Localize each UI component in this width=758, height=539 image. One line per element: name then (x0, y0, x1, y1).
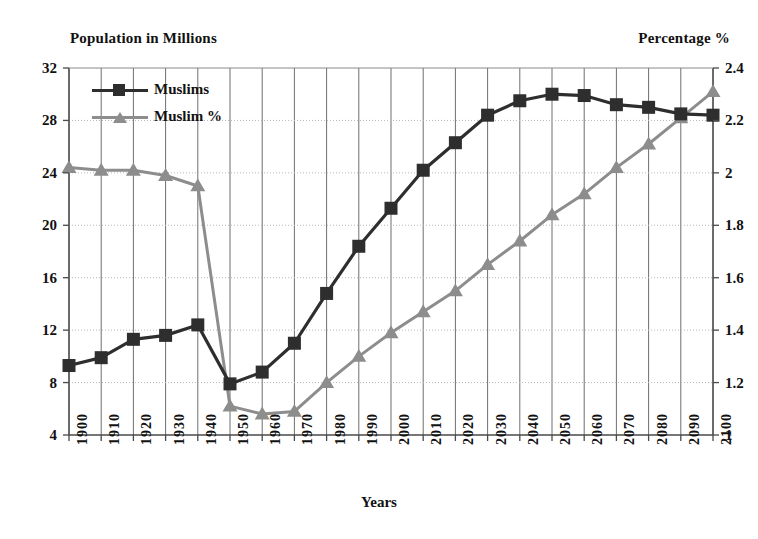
x-axis-tick-label: 1940 (204, 413, 220, 445)
x-axis-tick-label: 2050 (558, 413, 574, 445)
y2-axis-tick-label: 1.2 (725, 374, 758, 391)
y2-axis-tick-label: 1.6 (725, 269, 758, 286)
legend-item-muslim-percent: Muslim % (92, 103, 242, 130)
x-axis-tick-label: 1900 (75, 413, 91, 445)
x-axis-tick-label: 1970 (300, 413, 316, 445)
y-axis-tick-label: 28 (17, 112, 57, 129)
chart-container: Population in Millions Percentage % 4812… (0, 0, 758, 539)
x-axis-tick-label: 1960 (268, 413, 284, 445)
x-axis-tick-label: 2040 (526, 413, 542, 445)
x-axis-tick-label: 1910 (107, 413, 123, 445)
y2-axis-tick-label: 2.2 (725, 112, 758, 129)
chart-legend: Muslims Muslim % (92, 76, 242, 130)
y2-axis-tick-label: 1.4 (725, 322, 758, 339)
x-axis-tick-label: 2030 (494, 413, 510, 445)
y-axis-tick-label: 8 (17, 374, 57, 391)
y-axis-tick-label: 24 (17, 164, 57, 181)
legend-label-muslim-percent: Muslim % (154, 108, 222, 125)
y2-axis-tick-label: 1.8 (725, 217, 758, 234)
legend-swatch-muslims (92, 83, 148, 97)
y-axis-tick-label: 32 (17, 60, 57, 77)
x-axis-tick-label: 2090 (687, 413, 703, 445)
x-axis-tick-label: 2070 (622, 413, 638, 445)
x-axis-tick-label: 2000 (397, 413, 413, 445)
x-axis-tick-label: 1950 (236, 413, 252, 445)
y-axis-tick-label: 4 (17, 427, 57, 444)
x-axis-tick-label: 1920 (139, 413, 155, 445)
square-marker-icon (113, 84, 125, 96)
x-axis-tick-label: 1990 (365, 413, 381, 445)
triangle-marker-icon (113, 112, 127, 123)
x-axis-tick-label: 2100 (719, 413, 735, 445)
legend-item-muslims: Muslims (92, 76, 242, 103)
x-axis-tick-label: 1930 (172, 413, 188, 445)
x-axis-tick-label: 2080 (655, 413, 671, 445)
x-axis-title: Years (0, 494, 758, 511)
x-axis-tick-label: 2020 (461, 413, 477, 445)
y-axis-tick-label: 12 (17, 322, 57, 339)
x-axis-tick-label: 1980 (333, 413, 349, 445)
legend-label-muslims: Muslims (154, 81, 209, 98)
y-axis-tick-label: 20 (17, 217, 57, 234)
y-axis-tick-label: 16 (17, 269, 57, 286)
y2-axis-tick-label: 2.4 (725, 60, 758, 77)
x-axis-tick-label: 2060 (590, 413, 606, 445)
y2-axis-tick-label: 2 (725, 164, 758, 181)
x-axis-tick-label: 2010 (429, 413, 445, 445)
legend-swatch-muslim-percent (92, 110, 148, 124)
